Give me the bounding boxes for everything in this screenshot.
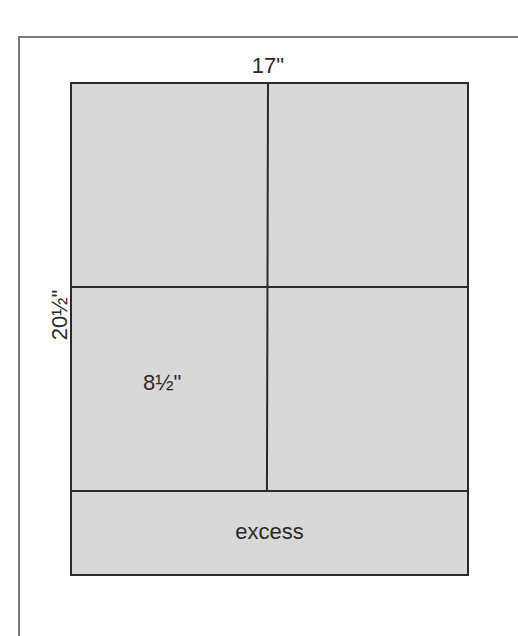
excess-divider [71,490,468,492]
panel-width-label: 8½" [143,370,181,396]
height-dimension-label: 20½" [47,275,73,355]
middle-horizontal-divider [71,286,468,288]
excess-label: excess [70,519,469,545]
paper-sheet [70,82,469,576]
width-dimension-label: 17" [233,53,303,79]
